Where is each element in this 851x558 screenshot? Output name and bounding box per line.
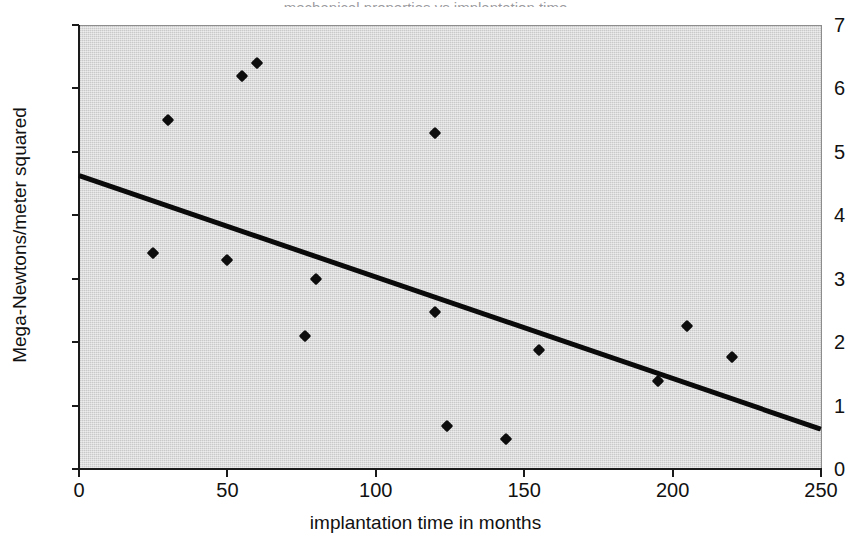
y-tick-mark (72, 405, 79, 407)
x-tick-mark (375, 470, 377, 477)
y-tick-mark (72, 151, 79, 153)
x-tick-label: 100 (359, 479, 392, 502)
cropped-title-text: mechanical properties vs implantation ti… (0, 0, 851, 7)
y-tick-label: 6 (785, 77, 851, 100)
x-tick-label: 200 (656, 479, 689, 502)
y-tick-label: 2 (785, 331, 851, 354)
y-tick-mark (72, 278, 79, 280)
x-tick-mark (672, 470, 674, 477)
y-tick-label: 5 (785, 140, 851, 163)
x-tick-mark (523, 470, 525, 477)
y-axis-line (78, 25, 80, 470)
x-axis-label: implantation time in months (0, 512, 851, 534)
y-tick-label: 0 (785, 458, 851, 481)
y-axis-label-container: Mega-Newtons/meter squared (0, 0, 40, 470)
plot-area (79, 25, 822, 470)
scatter-chart-figure: mechanical properties vs implantation ti… (0, 0, 851, 558)
x-tick-label: 150 (508, 479, 541, 502)
x-tick-mark (78, 470, 80, 477)
x-tick-label: 250 (804, 479, 837, 502)
y-tick-mark (72, 87, 79, 89)
x-tick-label: 50 (216, 479, 238, 502)
x-tick-label: 0 (73, 479, 84, 502)
y-tick-label: 1 (785, 394, 851, 417)
x-axis-line (78, 468, 822, 470)
y-axis-label: Mega-Newtons/meter squared (9, 107, 31, 363)
y-tick-mark (72, 341, 79, 343)
x-tick-mark (226, 470, 228, 477)
y-tick-mark (72, 214, 79, 216)
y-tick-mark (72, 24, 79, 26)
y-tick-label: 7 (785, 14, 851, 37)
y-tick-label: 3 (785, 267, 851, 290)
y-tick-label: 4 (785, 204, 851, 227)
x-tick-mark (820, 470, 822, 477)
